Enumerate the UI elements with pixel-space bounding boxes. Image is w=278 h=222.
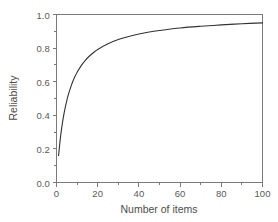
x-tick-label: 0: [54, 188, 59, 199]
y-tick-label: 0.0: [24, 177, 50, 188]
y-tick-label: 0.6: [24, 76, 50, 87]
x-tick-label: 100: [254, 188, 270, 199]
x-tick-label: 80: [216, 188, 227, 199]
x-tick-label: 60: [175, 188, 186, 199]
y-tick-label: 1.0: [24, 9, 50, 20]
x-axis-title: Number of items: [120, 203, 197, 215]
x-tick-label: 40: [134, 188, 145, 199]
y-tick-label: 0.8: [24, 43, 50, 54]
x-tick-label: 20: [92, 188, 103, 199]
y-tick-label: 0.2: [24, 143, 50, 154]
y-axis-title: Reliability: [7, 76, 19, 121]
chart-figure: 0.00.20.40.60.81.0 020406080100 Number o…: [0, 0, 278, 222]
y-tick-label: 0.4: [24, 110, 50, 121]
